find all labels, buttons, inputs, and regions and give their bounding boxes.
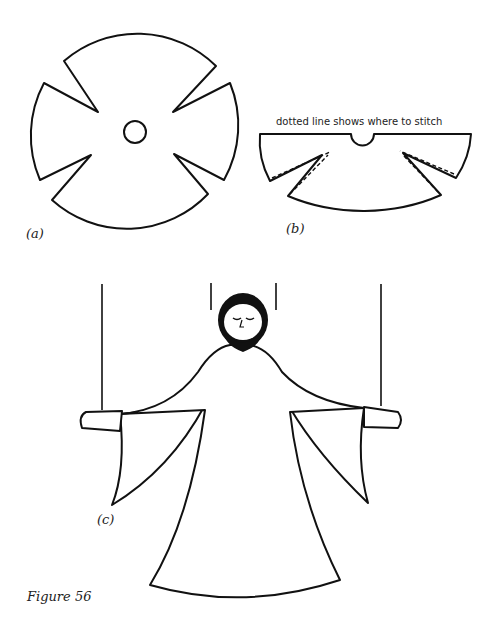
- label-a: (a): [26, 226, 44, 241]
- label-b: (b): [286, 221, 304, 236]
- puppet-head: [218, 293, 268, 352]
- center-hole: [124, 121, 146, 143]
- left-hand: [81, 411, 122, 431]
- label-c: (c): [97, 512, 114, 527]
- figure-56: (a) dotted line shows where to stitch (b…: [0, 0, 493, 630]
- panel-c-puppet: (c): [81, 283, 401, 597]
- right-hand: [364, 407, 401, 428]
- stitch-annotation: dotted line shows where to stitch: [276, 116, 442, 127]
- figure-caption: Figure 56: [26, 589, 91, 604]
- panel-a-pattern: (a): [26, 34, 238, 241]
- panel-b-pattern: dotted line shows where to stitch (b): [260, 116, 471, 236]
